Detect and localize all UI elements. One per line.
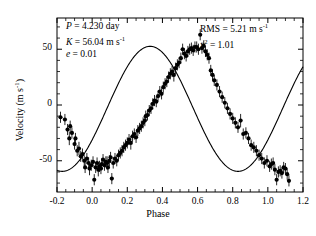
period-value: = 4.230 day: [72, 21, 120, 31]
data-point: [231, 116, 235, 120]
data-point: [83, 165, 87, 169]
data-point: [70, 131, 74, 135]
eccentricity-value: = 0.01: [70, 49, 97, 59]
rms-value: RMS = 5.21 m s: [200, 24, 263, 34]
data-point: [217, 90, 221, 94]
data-point: [257, 153, 261, 157]
data-point: [225, 106, 229, 110]
data-point: [63, 117, 67, 121]
data-point: [67, 136, 71, 140]
y-tick-label: 0: [23, 98, 52, 108]
data-point: [244, 131, 248, 135]
y-axis-label-close: ): [14, 79, 25, 82]
x-tick-label: 0.8: [219, 196, 247, 206]
y-axis-unit-exponent: -1: [13, 82, 20, 88]
data-point: [207, 56, 211, 60]
model-fit-curve: [57, 46, 303, 171]
amplitude-value: = 56.04 m s: [72, 37, 119, 47]
data-point: [58, 115, 62, 119]
data-point: [91, 160, 95, 164]
data-point: [77, 146, 81, 150]
data-point: [236, 125, 240, 129]
period-annotation: P = 4.230 day: [66, 20, 125, 33]
x-tick-label: 1.2: [289, 196, 316, 206]
amplitude-unit-exponent: -1: [120, 35, 126, 42]
y-axis-label: Velocity (m s-1): [13, 55, 25, 165]
data-point: [239, 119, 243, 123]
data-point: [108, 155, 112, 159]
data-point: [228, 112, 232, 116]
data-point: [252, 145, 256, 149]
chi-squared-value: = 1.01: [208, 40, 235, 50]
eccentricity-annotation: e = 0.01: [66, 48, 125, 61]
data-point: [233, 121, 237, 125]
y-tick-label: -50: [23, 154, 52, 164]
rms-unit-exponent: -1: [263, 22, 269, 29]
figure-container: P = 4.230 day K = 56.04 m s-1 e = 0.01 R…: [0, 0, 316, 236]
data-point: [287, 179, 291, 183]
x-tick-label: 0.4: [148, 196, 176, 206]
data-point: [143, 119, 147, 123]
data-point: [72, 142, 76, 146]
y-axis-label-text: Velocity (m s: [14, 88, 25, 141]
chi-squared-annotation: x2 = 1.01: [200, 36, 268, 52]
x-tick-label: 1.0: [254, 196, 282, 206]
data-point: [265, 159, 269, 163]
data-point: [110, 177, 114, 181]
data-point: [65, 127, 69, 131]
x-tick-label: 0.0: [78, 196, 106, 206]
data-point: [179, 56, 183, 60]
data-point: [215, 83, 219, 87]
data-point: [212, 78, 216, 82]
data-point: [260, 156, 264, 160]
data-point: [99, 166, 103, 170]
data-point: [273, 168, 277, 172]
data-point: [73, 136, 77, 140]
data-point: [275, 178, 279, 182]
y-tick-label: 50: [23, 42, 52, 52]
data-point: [223, 101, 227, 105]
x-tick-label: 0.6: [184, 196, 212, 206]
rms-annotation: RMS = 5.21 m s-1: [200, 20, 268, 36]
data-point: [254, 149, 258, 153]
data-point: [246, 136, 250, 140]
fit-parameters-left: P = 4.230 day K = 56.04 m s-1 e = 0.01: [66, 20, 125, 61]
amplitude-annotation: K = 56.04 m s-1: [66, 33, 125, 49]
x-axis-label: Phase: [0, 208, 316, 219]
x-tick-label: 0.2: [113, 196, 141, 206]
data-point: [92, 178, 96, 182]
data-point: [220, 95, 224, 99]
x-tick-label: -0.2: [43, 196, 71, 206]
fit-statistics-right: RMS = 5.21 m s-1 x2 = 1.01: [200, 20, 268, 51]
